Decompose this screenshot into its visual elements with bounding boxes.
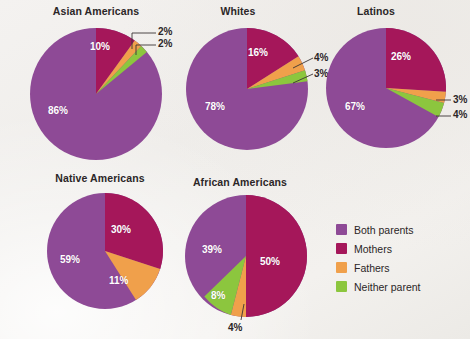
- pie-graphic-native-americans: [46, 192, 164, 310]
- slice-label-mothers: 10%: [90, 41, 110, 52]
- slice-label-both-parents: 78%: [205, 101, 225, 112]
- leader-line-neither-parent: [128, 43, 160, 59]
- chart-title-african-americans: African Americans: [160, 176, 320, 188]
- legend-label-mothers: Mothers: [354, 243, 392, 255]
- slice-label-mothers: 50%: [260, 256, 280, 267]
- legend-label-fathers: Fathers: [354, 262, 390, 274]
- slice-label-both-parents: 86%: [48, 105, 68, 116]
- pie-chart-asian-americans: Asian Americans 86% 10% 2% 2%: [12, 5, 180, 165]
- callout-label-fathers: 2%: [158, 26, 172, 37]
- legend-item-both-parents: Both parents: [336, 220, 421, 239]
- legend-label-both-parents: Both parents: [354, 224, 414, 236]
- slice-label-neither-parent: 8%: [211, 290, 225, 301]
- callout-label-fathers: 3%: [453, 94, 467, 105]
- legend-swatch-both-parents: [336, 224, 347, 235]
- legend-swatch-mothers: [336, 243, 347, 254]
- chart-title-latinos: Latinos: [316, 5, 436, 17]
- slice-label-both-parents: 39%: [202, 244, 222, 255]
- slice-label-mothers: 26%: [391, 51, 411, 62]
- pie-graphic-whites: [185, 27, 309, 151]
- chart-legend: Both parents Mothers Fathers Neither par…: [336, 220, 421, 296]
- chart-title-asian-americans: Asian Americans: [12, 5, 180, 17]
- legend-item-fathers: Fathers: [336, 258, 421, 277]
- slice-label-mothers: 30%: [111, 224, 131, 235]
- chart-title-whites: Whites: [178, 5, 298, 17]
- legend-item-mothers: Mothers: [336, 239, 421, 258]
- slice-label-both-parents: 59%: [60, 254, 80, 265]
- pie-graphic-african-americans: [184, 194, 308, 318]
- pie-chart-latinos: Latinos 67% 26% 3% 4%: [316, 5, 470, 165]
- callout-label-neither-parent: 2%: [158, 38, 172, 49]
- legend-label-neither-parent: Neither parent: [354, 281, 421, 293]
- legend-swatch-neither-parent: [336, 281, 347, 292]
- pie-chart-whites: Whites 78% 16% 4% 3%: [178, 5, 328, 165]
- pie-graphic-latinos: [325, 27, 447, 149]
- chart-title-native-americans: Native Americans: [25, 172, 175, 184]
- slice-label-mothers: 16%: [248, 47, 268, 58]
- leader-line-fathers: [236, 304, 252, 324]
- callout-label-fathers: 4%: [228, 322, 242, 333]
- legend-swatch-fathers: [336, 262, 347, 273]
- slice-label-both-parents: 67%: [345, 101, 365, 112]
- slice-label-fathers: 11%: [109, 275, 128, 286]
- pie-chart-african-americans: African Americans 39% 50% 8% 4%: [160, 176, 330, 339]
- legend-item-neither-parent: Neither parent: [336, 277, 421, 296]
- callout-label-neither-parent: 4%: [453, 109, 467, 120]
